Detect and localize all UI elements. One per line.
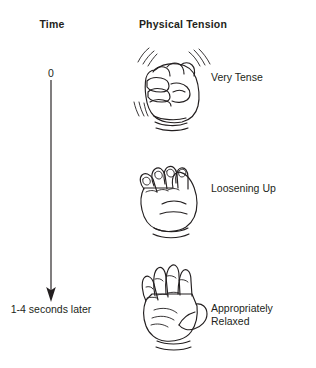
- clenched-fist-icon: [126, 40, 218, 132]
- state-label-appropriately-relaxed: Appropriately Relaxed: [211, 302, 273, 327]
- loose-fist-icon: [126, 148, 218, 240]
- time-axis-start-label: 0: [22, 67, 80, 79]
- column-header-physical-tension: Physical Tension: [108, 18, 258, 30]
- time-axis-end-label: 1-4 seconds later: [1, 303, 101, 316]
- state-label-loosening-up: Loosening Up: [211, 182, 276, 195]
- column-header-time: Time: [0, 18, 104, 30]
- tension-timeline-figure: Time Physical Tension 0 1-4 seconds late…: [0, 0, 316, 368]
- state-label-very-tense: Very Tense: [211, 71, 263, 84]
- open-palm-icon: [130, 256, 222, 352]
- down-arrow-icon: [20, 80, 82, 305]
